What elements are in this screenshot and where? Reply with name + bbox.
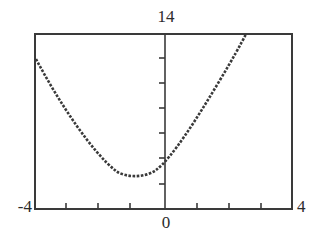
- x-max-label: 4: [297, 198, 325, 215]
- origin-label: 0: [152, 214, 180, 231]
- plot-frame: [34, 33, 293, 210]
- x-min-label: -4: [4, 198, 32, 215]
- parabola-figure: 14 0 -4 4: [0, 0, 332, 241]
- y-max-label: 14: [152, 8, 180, 25]
